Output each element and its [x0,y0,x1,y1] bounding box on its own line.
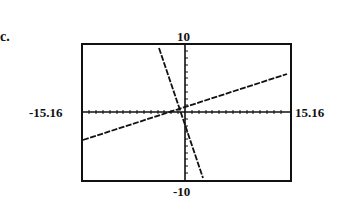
graph-window [0,0,339,208]
